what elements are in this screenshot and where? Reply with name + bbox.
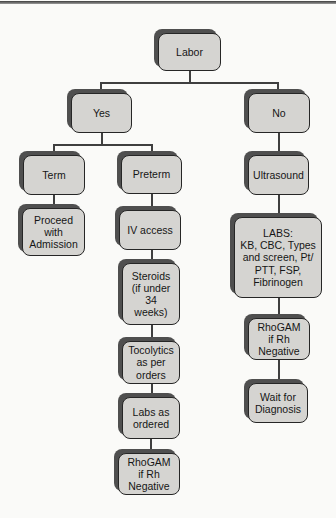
connector-term-proceed (53, 195, 55, 209)
node-labor: Labor (158, 33, 221, 71)
connector-preterm-iv (151, 194, 153, 211)
top-rule (0, 1, 336, 4)
node-tocolytics: Tocolytics as per orders (122, 341, 180, 384)
node-steroids: Steroids (if under 34 weeks) (122, 263, 180, 325)
node-rhogam-bottom: RhoGAM if Rh Negative (118, 453, 180, 495)
node-yes: Yes (71, 93, 132, 133)
node-labs-panel: LABS: KB, CBC, Types and screen, Pt/ PTT… (234, 217, 322, 298)
node-preterm: Preterm (121, 155, 182, 194)
connector-no-ultrasound (278, 133, 280, 156)
connector-tocolytics-labs (151, 384, 153, 398)
node-labs-as-ordered: Labs as ordered (122, 397, 180, 439)
node-ultrasound: Ultrasound (248, 155, 309, 195)
node-no: No (248, 93, 310, 133)
node-iv-access: IV access (119, 210, 181, 250)
node-rhogam-right: RhoGAM if Rh Negative (248, 318, 310, 360)
node-term: Term (23, 155, 85, 195)
connector-iv-steroids (151, 250, 153, 264)
connector-ultrasound-labs (278, 195, 280, 218)
connector-labs-rhogam-right (278, 298, 280, 319)
connector-yes-branch (53, 144, 153, 146)
node-wait-for-diagnosis: Wait for Diagnosis (248, 383, 308, 423)
node-proceed-with-admission: Proceed with Admission (22, 208, 85, 256)
connector-labor-branch (100, 82, 279, 84)
connector-rhogam-wait (278, 360, 280, 384)
connector-steroids-tocolytics (151, 325, 153, 342)
connector-labs-rhogam (150, 439, 152, 454)
page: Labor Yes No Term Preterm Ultrasound Pro… (0, 0, 336, 518)
